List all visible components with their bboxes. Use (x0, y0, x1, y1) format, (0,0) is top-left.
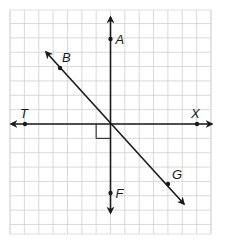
point-label-x: X (190, 106, 201, 121)
point-g (166, 182, 170, 186)
point-label-t: T (20, 106, 29, 121)
point-label-b: B (62, 50, 71, 65)
right-angle-box (96, 124, 110, 138)
point-label-g: G (172, 167, 182, 182)
point-b (58, 66, 62, 70)
point-x (195, 122, 199, 126)
geometry-diagram: AFTXBG (0, 0, 228, 245)
point-f (108, 191, 112, 195)
right-angle-marker (96, 124, 110, 138)
point-a (108, 37, 112, 41)
point-t (23, 122, 27, 126)
point-label-a: A (115, 32, 125, 47)
point-label-f: F (116, 186, 125, 201)
